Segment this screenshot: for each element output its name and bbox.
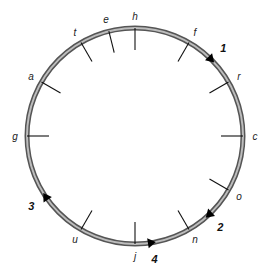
tick-mark: [41, 82, 60, 93]
tick-label: e: [103, 14, 109, 25]
arrow-number-label: 4: [150, 253, 157, 265]
tick-label: g: [12, 131, 18, 142]
tick-mark: [209, 82, 228, 93]
tick-label: f: [194, 27, 198, 38]
arrow-number-label: 1: [220, 42, 226, 54]
tick-mark: [209, 179, 228, 190]
arrow-number-label: 2: [216, 221, 223, 233]
tick-mark: [178, 210, 189, 229]
tick-label: r: [237, 71, 241, 82]
tick-mark: [81, 210, 92, 229]
tick-label: u: [72, 234, 78, 245]
tick-label: h: [132, 11, 138, 22]
tick-mark: [81, 42, 92, 61]
tick-label: t: [74, 27, 78, 38]
tick-label: c: [253, 131, 258, 142]
arrow-number-label: 3: [28, 200, 34, 212]
direction-arrows: 1243: [28, 42, 226, 266]
tick-label: a: [28, 71, 34, 82]
tick-mark: [178, 42, 189, 61]
circle-diagram: hfrconjugate 1243: [0, 0, 270, 279]
tick-label: j: [132, 251, 137, 262]
tick-label: o: [236, 191, 242, 202]
tick-mark: [109, 31, 114, 52]
tick-label: n: [192, 234, 198, 245]
